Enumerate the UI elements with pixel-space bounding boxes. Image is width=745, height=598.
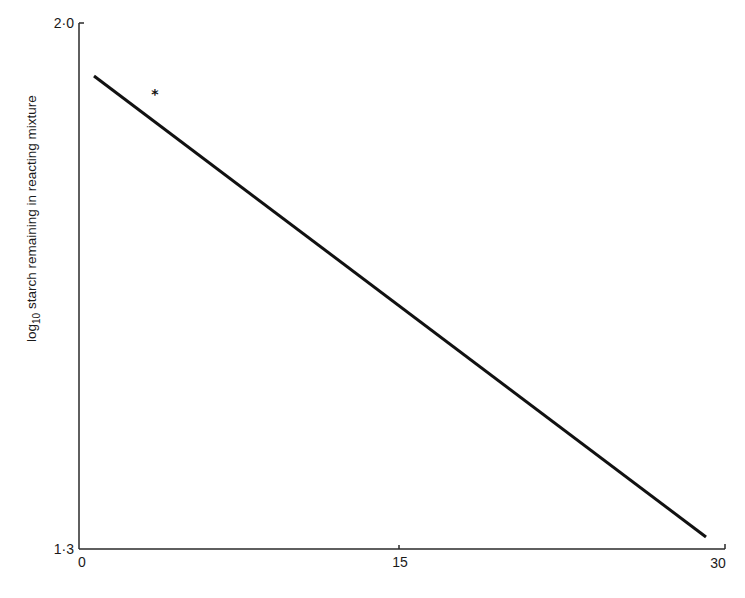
x-tick-label-30: 30 xyxy=(710,555,726,571)
asterisk-marker: * xyxy=(151,86,159,102)
y-axis-title-suffix: starch remaining in reacting mixture xyxy=(24,95,39,313)
data-line xyxy=(94,76,706,537)
chart: 2·0 1·3 0 15 30 log10 starch remaining i… xyxy=(0,0,745,598)
y-axis: 2·0 1·3 xyxy=(54,15,84,557)
y-axis-title-subscript: 10 xyxy=(31,312,42,324)
x-axis: 0 15 30 xyxy=(78,544,726,571)
y-tick-label-bottom: 1·3 xyxy=(54,541,74,557)
y-axis-title-prefix: log xyxy=(24,324,39,342)
x-tick-label-0: 0 xyxy=(78,554,86,570)
y-tick-label-top: 2·0 xyxy=(54,15,74,31)
x-tick-label-15: 15 xyxy=(392,554,408,570)
y-axis-title: log10 starch remaining in reacting mixtu… xyxy=(24,95,42,342)
